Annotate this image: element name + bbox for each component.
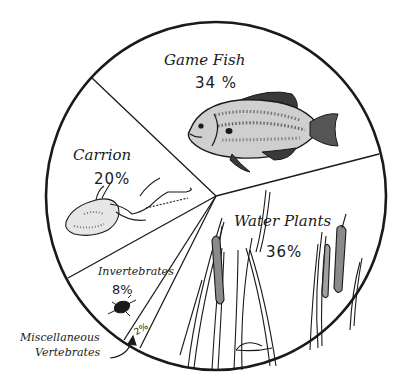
label-misc-line2: Vertebrates	[35, 347, 100, 358]
value-invertebrates: 8%	[112, 283, 133, 296]
label-water-plants: Water Plants	[234, 214, 331, 229]
value-game-fish: 34 %	[195, 76, 237, 91]
label-carrion: Carrion	[73, 148, 131, 163]
label-misc-line1: Miscellaneous	[20, 332, 100, 343]
value-carrion: 20%	[94, 172, 130, 187]
label-invertebrates: Invertebrates	[98, 266, 174, 277]
value-water-plants: 36%	[266, 245, 302, 260]
label-game-fish: Game Fish	[164, 53, 245, 68]
